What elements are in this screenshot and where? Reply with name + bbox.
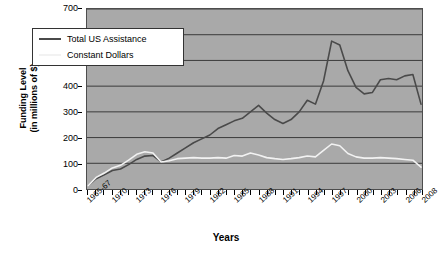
x-axis-tick-labels: 1965-67197019731976197919821985198819911… bbox=[56, 196, 428, 232]
x-axis-title: Years bbox=[56, 232, 396, 243]
legend-label-constant-dollars: Constant Dollars bbox=[67, 50, 134, 60]
y-tick-mark bbox=[78, 164, 82, 165]
y-tick-mark bbox=[78, 190, 82, 191]
y-tick-mark bbox=[78, 112, 82, 113]
y-tick-label: 700 bbox=[63, 3, 78, 13]
legend-label-total-us-assistance: Total US Assistance bbox=[67, 34, 147, 44]
legend-item-constant-dollars: Constant Dollars bbox=[33, 47, 183, 63]
y-tick-label: 400 bbox=[63, 81, 78, 91]
legend-swatch-total-us-assistance bbox=[39, 38, 61, 40]
y-axis-title-line1: Funding Level bbox=[17, 64, 28, 133]
y-tick-mark bbox=[78, 8, 82, 9]
y-tick-label: 200 bbox=[63, 133, 78, 143]
legend-item-total-us-assistance: Total US Assistance bbox=[33, 31, 183, 47]
y-tick-mark bbox=[78, 138, 82, 139]
y-tick-label: 100 bbox=[63, 159, 78, 169]
series-line bbox=[88, 144, 421, 186]
y-tick-label: 300 bbox=[63, 107, 78, 117]
y-tick-mark bbox=[78, 86, 82, 87]
chart-legend: Total US Assistance Constant Dollars bbox=[32, 28, 184, 66]
legend-swatch-constant-dollars bbox=[39, 54, 61, 56]
y-axis-title-line2: (in millions of $) bbox=[28, 64, 39, 133]
